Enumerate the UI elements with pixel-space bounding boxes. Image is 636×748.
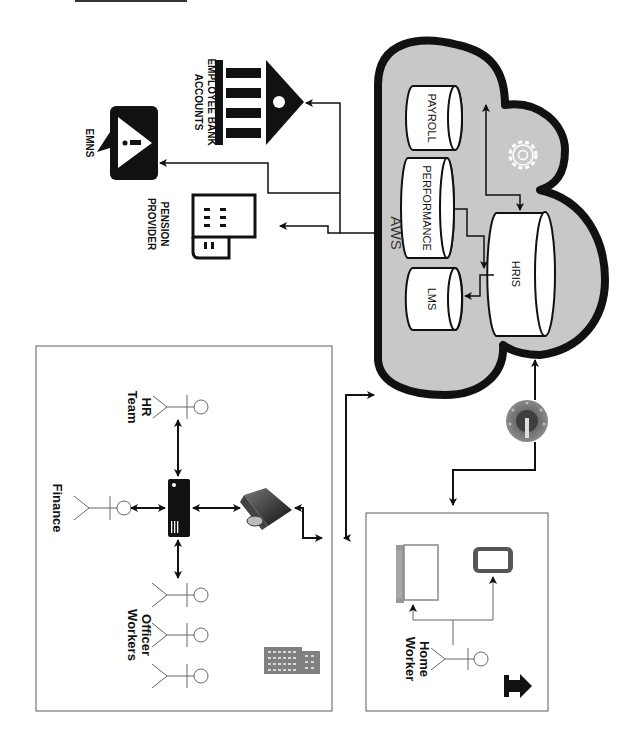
actor-home-worker[interactable] xyxy=(431,648,488,670)
bank-label-2: ACCOUNTS xyxy=(193,74,204,131)
office-connectors xyxy=(131,395,374,578)
database-payroll[interactable]: PAYROLL xyxy=(406,86,462,150)
database-hris[interactable]: HRIS xyxy=(487,212,555,336)
hr-architecture-diagram: AWS PAYROLL PERFORMANCE LMS HRIS xyxy=(0,0,636,748)
home-worker-label: Home xyxy=(417,641,432,677)
home-worker-label-2: Worker xyxy=(403,637,418,682)
hris-label: HRIS xyxy=(510,261,522,287)
gear-icon xyxy=(510,142,536,168)
emns-label: EMNS xyxy=(84,129,95,158)
bank-label: EMPLOYEE BANK xyxy=(206,58,217,146)
finance-label: Finance xyxy=(50,483,65,532)
actor-finance[interactable] xyxy=(74,496,131,520)
actor-officer-worker-3[interactable] xyxy=(152,664,208,688)
pension-label-2: PROVIDER xyxy=(146,198,157,251)
server-icon[interactable] xyxy=(168,479,190,537)
smartphone-icon[interactable] xyxy=(473,547,513,573)
hr-team-label-2: Team xyxy=(125,391,140,424)
lms-label: LMS xyxy=(426,288,438,311)
database-performance[interactable]: PERFORMANCE xyxy=(401,158,454,258)
actor-officer-worker-1[interactable] xyxy=(152,583,208,607)
bank-icon xyxy=(215,60,304,145)
firewall-router-icon[interactable] xyxy=(240,488,292,530)
office-building-icon xyxy=(264,647,320,674)
performance-label: PERFORMANCE xyxy=(421,165,433,251)
actor-officer-worker-2[interactable] xyxy=(152,623,208,647)
alert-icon xyxy=(97,106,158,180)
pension-provider-icon xyxy=(193,195,255,258)
officer-workers-label-2: Workers xyxy=(125,609,140,661)
hr-team-label: HR xyxy=(139,398,154,417)
vpn-gateway-icon[interactable] xyxy=(506,400,548,442)
database-lms[interactable]: LMS xyxy=(406,268,462,330)
officer-workers-label: Officer xyxy=(139,614,154,656)
home-icon xyxy=(504,674,532,698)
laptop-icon[interactable] xyxy=(396,545,438,603)
actor-hr-team[interactable] xyxy=(153,395,208,419)
pension-label: PENSION xyxy=(159,201,170,246)
payroll-label: PAYROLL xyxy=(426,93,438,142)
